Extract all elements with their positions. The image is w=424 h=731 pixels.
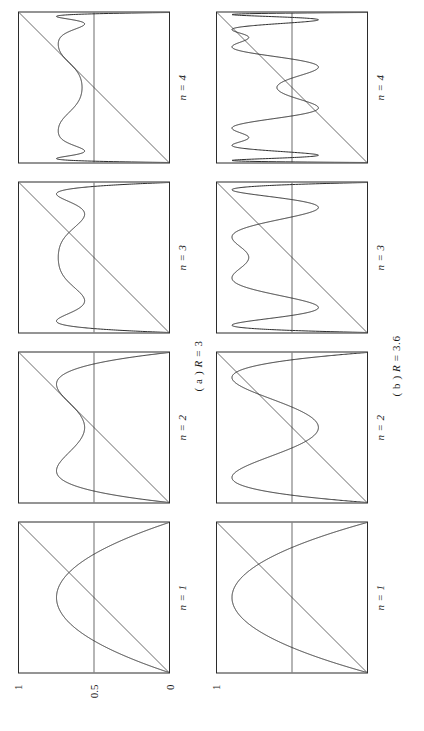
row-caption-a-symbol: R [192,360,204,367]
row-caption-b-value: 3.6 [390,335,402,351]
logistic-curve [57,182,170,332]
plot-svg-a-n3 [19,182,169,332]
y-axis-labels-row-a: 1 0.5 0 [18,679,170,731]
figure-row-a: 1 0.5 0 [8,0,198,731]
row-caption-a: ( a ) R = 3 [192,0,204,731]
logistic-curve [232,182,367,332]
plot-panel-b-n1 [216,521,368,673]
row-caption-b-eq: = [390,354,402,361]
row-caption-b: ( b ) R = 3.6 [390,0,402,731]
row-caption-a-eq: = [192,349,204,356]
row-caption-a-value: 3 [192,340,204,346]
plot-svg-b-n2 [217,352,367,502]
rotated-figure-canvas: 1 0.5 0 [0,0,424,731]
plot-panel-a-n4 [18,11,170,163]
panel-label-a-n3: n = 3 [176,181,188,333]
plot-svg-a-n2 [19,352,169,502]
figure-row-b: 1 [206,0,396,731]
row-caption-b-symbol: R [390,364,402,371]
plot-panel-a-n2 [18,351,170,503]
logistic-curve [57,12,169,162]
row-caption-b-prefix: ( b ) [390,375,402,396]
plot-svg-a-n1 [19,522,169,672]
panel-label-b-n4: n = 4 [374,11,386,163]
y-tick-top-b: 1 [211,679,222,726]
plot-svg-b-n3 [217,182,367,332]
logistic-curve [232,12,367,162]
plot-panel-a-n1 [18,521,170,673]
logistic-curve [57,352,170,502]
panel-label-b-n1: n = 1 [374,521,386,673]
plot-panel-b-n4 [216,11,368,163]
panel-label-a-n2: n = 2 [176,351,188,503]
row-caption-a-prefix: ( a ) [192,370,204,391]
logistic-curve [232,352,367,502]
plot-panel-b-n2 [216,351,368,503]
y-tick-mid-a: 0.5 [89,679,100,726]
figure-stage: 1 0.5 0 [0,0,424,731]
panel-label-b-n3: n = 3 [374,181,386,333]
plot-panel-b-n3 [216,181,368,333]
plot-svg-b-n1 [217,522,367,672]
panel-label-a-n4: n = 4 [176,11,188,163]
panel-label-a-n1: n = 1 [176,521,188,673]
y-axis-labels-row-b: 1 [216,679,368,731]
y-tick-bottom-a: 0 [165,679,176,726]
plot-panel-a-n3 [18,181,170,333]
plot-svg-b-n4 [217,12,367,162]
logistic-curve [57,522,170,672]
plot-svg-a-n4 [19,12,169,162]
y-tick-top-a: 1 [13,679,24,726]
panel-label-b-n2: n = 2 [374,351,386,503]
logistic-curve [232,522,367,672]
